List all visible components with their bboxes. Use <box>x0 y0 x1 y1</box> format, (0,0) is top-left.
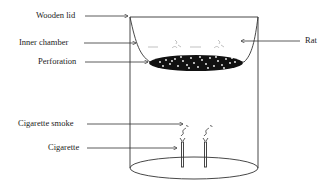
label-rat: Rat <box>305 36 317 45</box>
cigarettes <box>182 142 207 167</box>
cigarette-2 <box>205 142 207 167</box>
rat-1 <box>148 40 181 48</box>
label-inner-chamber: Inner chamber <box>19 38 68 47</box>
label-perforation: Perforation <box>38 57 76 66</box>
cigarette-1 <box>182 142 184 167</box>
label-wooden-lid: Wooden lid <box>36 11 75 20</box>
rat-2 <box>190 40 224 48</box>
base-ellipse <box>130 157 258 179</box>
leader-lines <box>84 16 300 148</box>
label-cigarette: Cigarette <box>48 143 79 152</box>
outer-cylinder <box>130 17 258 179</box>
cigarette-smoke <box>180 126 212 141</box>
label-cigarette-smoke: Cigarette smoke <box>18 119 73 128</box>
smoking-chamber-diagram <box>0 0 333 193</box>
perforation-floor <box>149 55 243 71</box>
